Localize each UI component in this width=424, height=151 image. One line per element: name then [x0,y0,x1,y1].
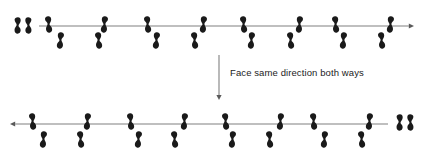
footprint-left [358,131,366,148]
footprint-shape [407,114,413,130]
footprint-right [56,32,64,49]
footprint-right [83,113,91,130]
footprint-left [95,32,103,49]
footprint-shape [39,131,47,148]
steps-below-line [56,32,385,49]
footprint-shape [320,131,328,148]
footprint-shape [95,32,103,49]
footprint-shape [222,113,230,130]
footprint-shape [358,131,366,148]
footprint-left [77,131,85,148]
footprint-right [320,131,328,148]
footprint-shape [240,16,248,33]
footprint-right [276,113,284,130]
footprint-left [222,113,230,130]
steps-above-line [45,16,395,33]
footprint-right [365,113,373,130]
top-row-group [15,16,414,49]
footprint-left [378,32,386,49]
footprint-left [29,113,37,130]
footprint-shape [180,113,188,130]
footprint-shape [29,113,37,130]
footprint-shape [25,17,31,33]
axis-arrowhead [10,121,15,126]
footprint-left [144,16,152,33]
footprint-right [407,114,413,130]
footprint-shape [152,32,160,49]
footprint-right [199,16,207,33]
footprint-right [295,16,303,33]
footprint-shape [100,16,108,33]
footprint-right [39,131,47,148]
footprint-left [266,131,274,148]
footprint-right [339,32,347,49]
footprint-shape [134,131,142,148]
footprint-right [228,131,236,148]
footprint-shape [77,131,85,148]
footprint-left [397,114,403,130]
footprint-right [386,16,394,33]
footprint-shape [310,113,318,130]
footprint-right [152,32,160,49]
transition-arrow-group [216,55,221,100]
footprint-right [134,131,142,148]
transition-arrowhead [216,95,221,100]
footprint-shape [45,16,53,33]
footprint-shape [287,32,295,49]
footprint-left [127,113,135,130]
steps-below-line [39,131,365,148]
start-position-pair [397,114,414,130]
footprint-shape [83,113,91,130]
footprint-left [240,16,248,33]
footprint-shape [171,131,179,148]
footprint-left [287,32,295,49]
axis-arrowhead [409,23,414,28]
footprint-shape [228,131,236,148]
steps-above-line [29,113,374,130]
footprint-shape [295,16,303,33]
footprint-left [332,16,340,33]
start-position-pair [15,17,32,33]
axis-arrow-left [10,121,388,126]
footprint-shape [266,131,274,148]
footprint-shape [56,32,64,49]
footprint-shape [397,114,403,130]
footprint-left [15,17,21,33]
footprint-right [25,17,31,33]
footprint-shape [15,17,21,33]
footprint-shape [276,113,284,130]
footprint-direction-diagram: Face same direction both ways [0,0,424,151]
bottom-row-group [10,113,413,148]
footprint-right [247,32,255,49]
footprint-shape [191,32,199,49]
footprint-shape [339,32,347,49]
footprint-shape [365,113,373,130]
axis-arrow-right [39,23,414,28]
footprint-shape [199,16,207,33]
footprint-shape [378,32,386,49]
footprint-shape [332,16,340,33]
footprint-shape [127,113,135,130]
footprint-left [171,131,179,148]
footprint-shape [144,16,152,33]
caption-label: Face same direction both ways [230,68,364,78]
footprint-right [180,113,188,130]
footprint-left [45,16,53,33]
footprint-shape [247,32,255,49]
footprint-shape [386,16,394,33]
footprint-left [310,113,318,130]
footprint-right [100,16,108,33]
footprint-left [191,32,199,49]
